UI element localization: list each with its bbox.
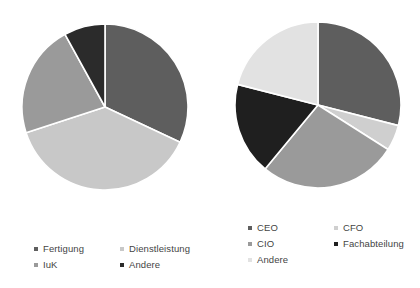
legend-swatch-icon [248,226,252,230]
legend-swatch-icon [248,258,252,262]
legend-branche-item-iuk[interactable]: IuK [34,259,110,271]
legend-funktion-label: CEO [257,222,278,234]
legend-branche-label: IuK [43,259,58,271]
legend-funktion-item-cfo[interactable]: CFO [334,222,404,234]
legend-funktion-item-andere[interactable]: Andere [248,254,324,266]
pie-chart-branche [21,23,189,191]
legend-branche-label: Dienstleistung [129,243,190,255]
legend-funktion-label: Andere [257,254,288,266]
pie-chart-branche-svg [21,23,189,191]
legend-branche-label: Andere [129,259,160,271]
legend-funktion-label: CIO [257,238,274,250]
legend-swatch-icon [120,263,124,267]
legend-swatch-icon [34,247,38,251]
pie-chart-funktion [234,21,402,189]
legend-funktion-item-cio[interactable]: CIO [248,238,324,250]
legend-branche-item-dienstleistung[interactable]: Dienstleistung [120,243,190,255]
legend-funktion-item-fachabteilung[interactable]: Fachabteilung [334,238,404,250]
legend-swatch-icon [34,263,38,267]
legend-funktion-label: CFO [343,222,363,234]
legend-swatch-icon [248,242,252,246]
legend-funktion-label: Fachabteilung [343,238,404,250]
legend-funktion-item-ceo[interactable]: CEO [248,222,324,234]
legend-funktion: CEOCFOCIOFachabteilungAndere [248,222,404,266]
legend-swatch-icon [120,247,124,251]
legend-swatch-icon [334,226,338,230]
footer-strip [0,281,420,288]
legend-branche-label: Fertigung [43,243,84,255]
legend-branche-item-fertigung[interactable]: Fertigung [34,243,110,255]
legend-branche-item-andere[interactable]: Andere [120,259,190,271]
legend-branche: FertigungDienstleistungIuKAndere [34,243,190,271]
legend-swatch-icon [334,242,338,246]
pie-chart-figure: FertigungDienstleistungIuKAndere CEOCFOC… [0,0,420,288]
pie-chart-funktion-svg [234,21,402,189]
